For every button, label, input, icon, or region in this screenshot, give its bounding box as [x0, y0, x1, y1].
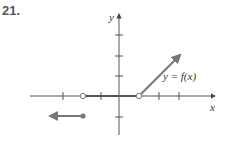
x-axis-label: x [209, 101, 215, 113]
function-label: y = f(x) [162, 70, 196, 83]
y-axis-label: y [108, 11, 114, 23]
closed-dot [80, 113, 85, 118]
piecewise-graph: y x y = f(x) [0, 0, 230, 142]
open-dot-right [136, 93, 141, 98]
open-dot-left [80, 93, 85, 98]
